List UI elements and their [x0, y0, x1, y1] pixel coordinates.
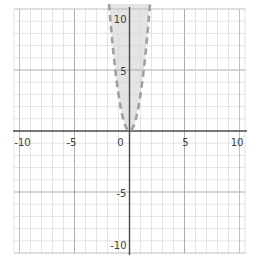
y-tick-label: 5 [120, 66, 126, 77]
x-tick-label: -5 [67, 137, 77, 148]
x-tick-label: 10 [231, 137, 244, 148]
x-tick-label: 0 [117, 137, 123, 148]
y-tick-label: 10 [114, 14, 127, 25]
x-tick-label: -10 [14, 137, 30, 148]
graph-container: -10-50510105-5-10 [0, 0, 258, 271]
parabola-inequality-graph: -10-50510105-5-10 [0, 0, 258, 271]
x-tick-label: 5 [182, 137, 188, 148]
y-tick-label: -10 [110, 240, 126, 251]
y-tick-label: -5 [117, 188, 127, 199]
